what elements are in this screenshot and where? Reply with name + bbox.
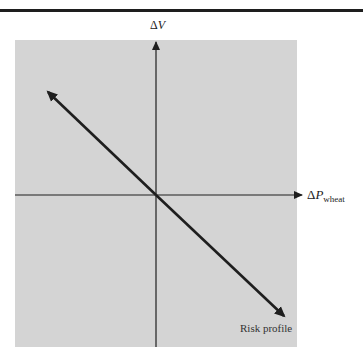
risk-profile-line	[156, 195, 284, 316]
risk-profile-plot	[0, 0, 363, 357]
y-axis-label: ΔV	[150, 18, 165, 33]
x-axis-label: ΔPwheat	[307, 187, 345, 204]
risk-profile-label: Risk profile	[240, 322, 292, 334]
risk-profile-line	[48, 92, 156, 195]
